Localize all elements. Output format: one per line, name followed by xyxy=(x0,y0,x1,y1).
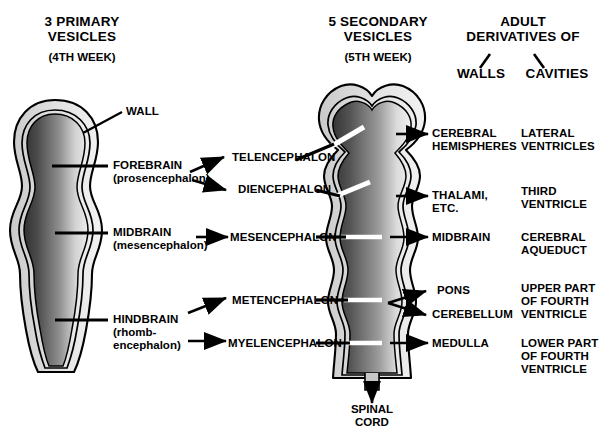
wall-label: WALL xyxy=(126,105,159,118)
primary-vesicle-hindbrain-alt: (rhomb- encephalon) xyxy=(113,326,181,352)
secondary-vesicle-metencephalon: METENCEPHALON xyxy=(232,294,338,307)
secondary-vesicles-title: 5 SECONDARY VESICLES xyxy=(302,14,454,44)
adult-wall-medulla: MEDULLA xyxy=(432,337,489,350)
secondary-vesicle-mesencephalon: MESENCEPHALON xyxy=(230,231,337,244)
arrow-hindbrain-metencephalon xyxy=(188,298,226,313)
primary-vesicle-forebrain-alt: (prosencephalon) xyxy=(113,172,209,185)
primary-vesicles-title: 3 PRIMARY VESICLES xyxy=(12,14,152,44)
spinal-cord-label: SPINAL CORD xyxy=(332,403,412,429)
secondary-vesicle-myelencephalon: MYELENCEPHALON xyxy=(228,337,342,350)
primary-vesicle-midbrain-alt: (mesencephalon) xyxy=(113,239,208,252)
secondary-vesicle-diencephalon: DIENCEPHALON xyxy=(238,183,331,196)
primary-vesicle-midbrain: MIDBRAIN xyxy=(113,226,171,239)
secondary-vesicle-telencephalon: TELENCEPHALON xyxy=(232,151,336,164)
cavities-column-header: CAVITIES xyxy=(513,66,601,81)
adult-wall-thalami: THALAMI, ETC. xyxy=(432,189,488,215)
adult-cavity-cerebral-aqueduct: CEREBRAL AQUEDUCT xyxy=(521,231,587,257)
adult-derivatives-title: ADULT DERIVATIVES OF xyxy=(451,14,595,44)
adult-cavity-lower-fourth-ventricle: LOWER PART OF FOURTH VENTRICLE xyxy=(521,337,598,376)
walls-column-header: WALLS xyxy=(441,66,521,81)
primary-vesicles-subtitle: (4TH WEEK) xyxy=(12,51,152,64)
adult-cavity-upper-fourth-ventricle: UPPER PART OF FOURTH VENTRICLE xyxy=(521,282,595,321)
secondary-vesicles-subtitle: (5TH WEEK) xyxy=(302,51,454,64)
primary-vesicle-hindbrain: HINDBRAIN xyxy=(113,313,178,326)
diagram-canvas: 3 PRIMARY VESICLES (4TH WEEK) 5 SECONDAR… xyxy=(0,0,603,435)
adult-cavity-third-ventricle: THIRD VENTRICLE xyxy=(521,185,587,211)
adult-cavity-lateral-ventricles: LATERAL VENTRICLES xyxy=(521,127,595,153)
adult-wall-pons: PONS xyxy=(437,284,470,297)
primary-vesicle-shape xyxy=(10,100,102,372)
adult-wall-cerebellum: CEREBELLUM xyxy=(432,308,513,321)
primary-vesicle-forebrain: FOREBRAIN xyxy=(113,159,182,172)
adult-wall-midbrain: MIDBRAIN xyxy=(432,231,490,244)
arrow-forebrain-telencephalon xyxy=(190,157,224,172)
adult-wall-cerebral-hemispheres: CEREBRAL HEMISPHERES xyxy=(432,127,517,153)
